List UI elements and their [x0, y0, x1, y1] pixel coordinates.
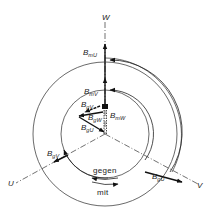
- axis-label-u: U: [8, 179, 14, 188]
- rotating-field-diagram: W U V BmU BmV BgV BgW BmW BgU BgV BgU ge…: [0, 0, 210, 218]
- phase-axes: [16, 22, 198, 184]
- label-b-mu: BmU: [83, 48, 97, 58]
- arc-arrow-mv: [110, 90, 154, 160]
- label-b-gv-outer: BgV: [47, 149, 60, 159]
- axis-label-v: V: [197, 181, 203, 190]
- w-axis-vectors: [102, 44, 108, 134]
- label-mit: mit: [97, 188, 109, 197]
- axis-label-w: W: [102, 13, 111, 22]
- field-circles: [33, 58, 181, 206]
- label-gegen: gegen: [93, 166, 117, 175]
- vector-labels: BmU BmV BgV BgW BmW BgU BgV BgU: [47, 48, 164, 182]
- mit-arrow: [92, 182, 118, 185]
- label-b-mw: BmW: [110, 111, 126, 121]
- label-b-gw: BgW: [88, 113, 102, 123]
- label-b-gv-inner: BgV: [81, 100, 94, 110]
- label-b-gu-outer: BgU: [152, 172, 164, 182]
- label-b-mv: BmV: [84, 87, 99, 97]
